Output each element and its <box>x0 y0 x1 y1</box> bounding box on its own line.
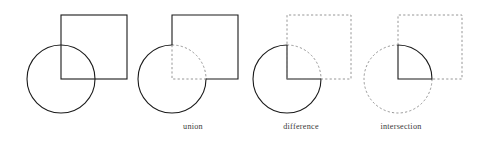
boolean-operations-figure: union difference intersection <box>0 0 489 144</box>
intersection-label: intersection <box>380 122 421 131</box>
figure-canvas: union difference intersection <box>0 0 489 144</box>
difference-label: difference <box>283 122 319 131</box>
union-label: union <box>183 122 203 131</box>
